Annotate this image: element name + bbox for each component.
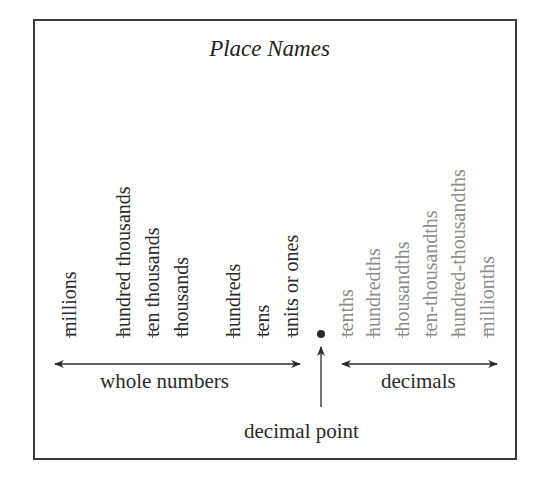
decimals-label: decimals: [381, 369, 456, 394]
whole-numbers-label: whole numbers: [100, 369, 229, 394]
decimal-point-label: decimal point: [244, 419, 359, 444]
arrows-layer: [0, 0, 539, 479]
